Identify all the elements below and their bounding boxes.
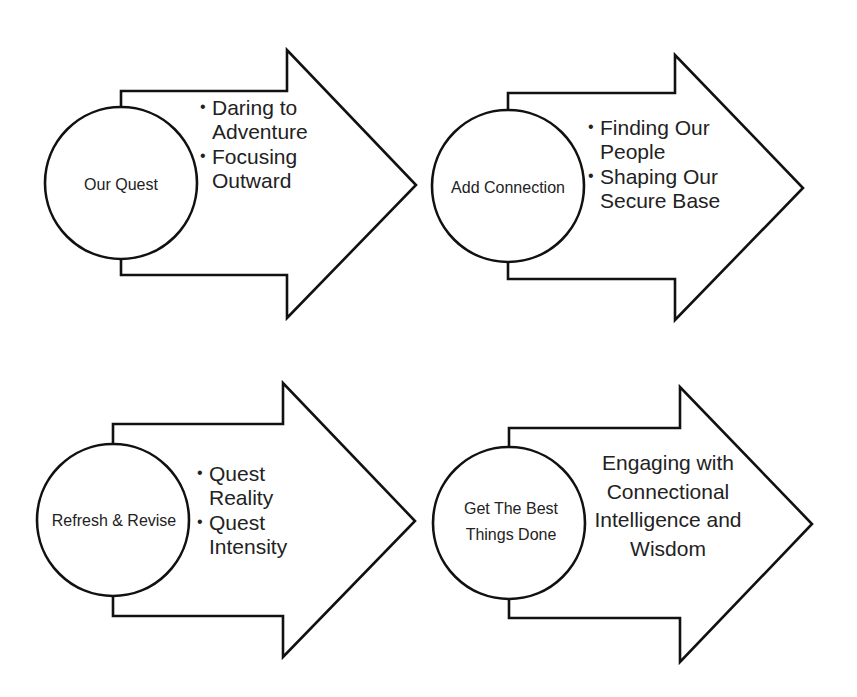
bullet-item: Focusing Outward [200, 145, 340, 193]
step-2-circle-label: Add Connection [442, 166, 574, 208]
step-3-circle-label: Refresh & Revise [43, 498, 185, 542]
bullet-item: Quest Reality [197, 462, 327, 510]
bullet-item: Shaping Our Secure Base [588, 165, 738, 213]
step-1-circle-label: Our Quest [50, 170, 192, 198]
step-1-bullets: Daring to Adventure Focusing Outward [200, 96, 340, 194]
step-4-text: Engaging with Connectional Intelligence … [587, 449, 749, 563]
diagram-canvas [0, 0, 857, 697]
bullet-item: Finding Our People [588, 116, 738, 164]
step-4-circle-label: Get The Best Things Done [461, 472, 561, 572]
bullet-item: Quest Intensity [197, 511, 327, 559]
step-2-bullets: Finding Our People Shaping Our Secure Ba… [588, 116, 738, 214]
step-3-bullets: Quest Reality Quest Intensity [197, 462, 327, 560]
bullet-item: Daring to Adventure [200, 96, 340, 144]
